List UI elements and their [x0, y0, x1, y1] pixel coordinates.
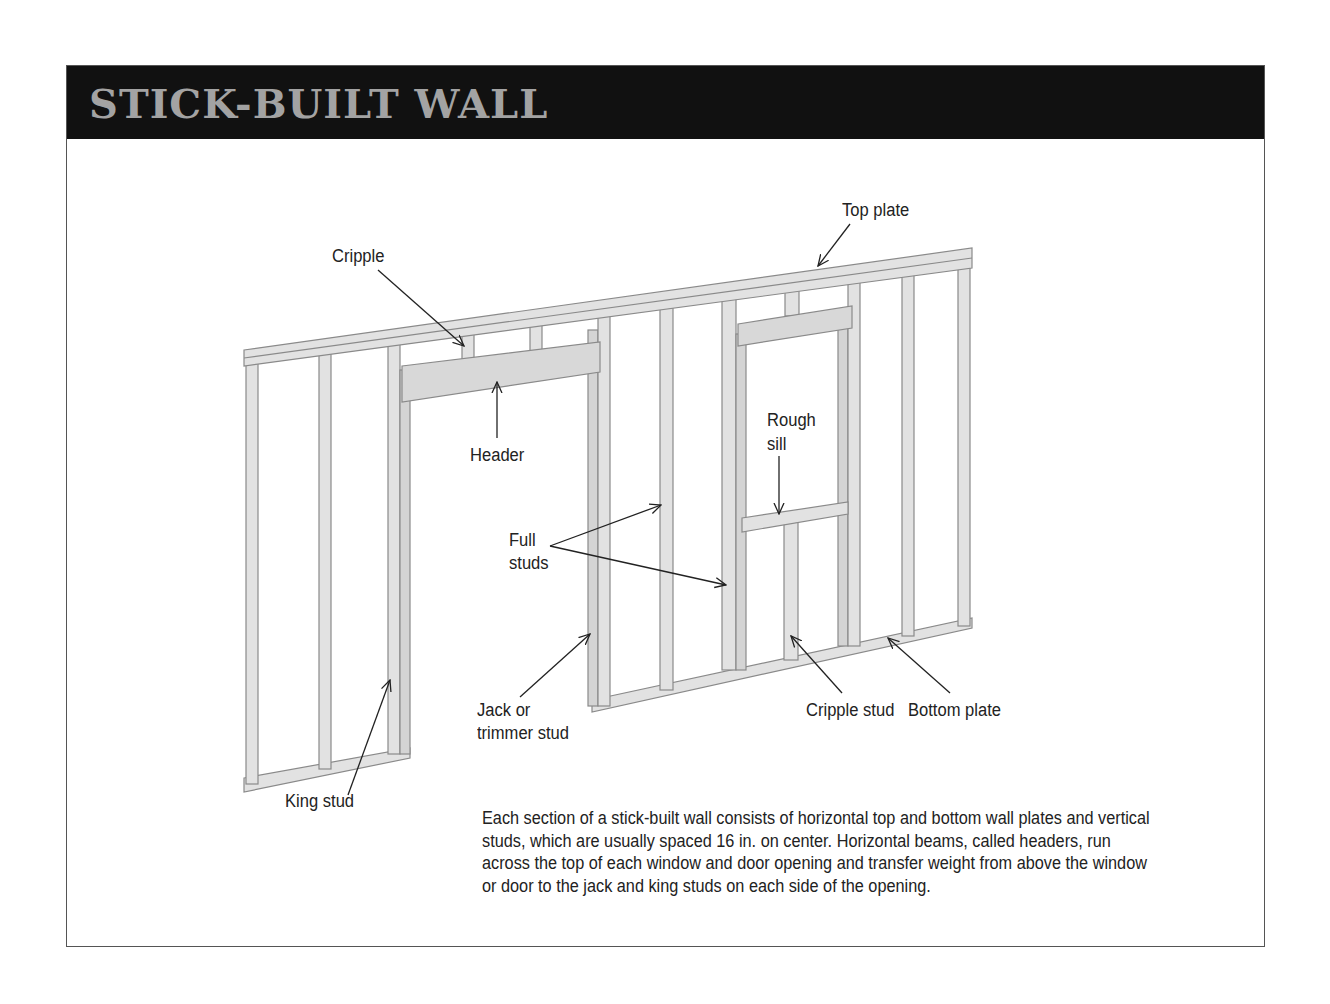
label-jack-stud-1: Jack or: [477, 700, 530, 721]
window-king-right: [848, 282, 860, 646]
end-stud-left: [246, 356, 258, 784]
label-full-studs-2: studs: [509, 553, 549, 574]
end-stud-right: [958, 262, 970, 626]
stud: [319, 346, 331, 769]
window-jack-left: [736, 334, 746, 670]
arrow-bottom-plate: [888, 638, 950, 693]
arrow-king-stud: [348, 680, 390, 795]
caption-text: Each section of a stick-built wall consi…: [482, 807, 1152, 897]
jack-stud-left: [400, 370, 410, 754]
label-jack-stud-2: trimmer stud: [477, 723, 569, 744]
label-cripple-stud: Cripple stud: [806, 700, 894, 721]
label-full-studs-1: Full: [509, 530, 536, 551]
jack-stud-right: [588, 330, 598, 706]
label-rough-sill-1: Rough: [767, 410, 816, 431]
king-stud-right: [598, 316, 610, 706]
king-stud-left: [388, 338, 400, 754]
full-stud-window-king: [722, 298, 736, 670]
arrow-jack-stud: [520, 634, 590, 697]
cripple-stud: [784, 522, 798, 660]
label-bottom-plate: Bottom plate: [908, 700, 1001, 721]
full-stud: [660, 308, 673, 690]
label-top-plate: Top plate: [842, 200, 909, 221]
arrow-top-plate: [818, 224, 850, 266]
stud: [902, 270, 914, 636]
door-header: [402, 342, 600, 402]
label-header: Header: [470, 445, 524, 466]
window-jack-right: [838, 326, 848, 646]
label-rough-sill-2: sill: [767, 434, 786, 455]
label-king-stud: King stud: [285, 791, 354, 812]
label-cripple: Cripple: [332, 246, 384, 267]
bottom-plate-right: [592, 618, 972, 712]
arrow-full-stud-2: [550, 546, 726, 585]
